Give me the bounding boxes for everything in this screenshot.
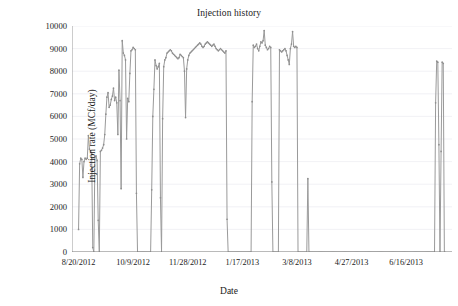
data-point-marker: [287, 59, 289, 61]
data-point-marker: [288, 64, 290, 66]
data-point-marker: [156, 68, 158, 70]
data-point-marker: [183, 57, 185, 59]
data-point-marker: [120, 188, 122, 190]
data-point-marker: [115, 96, 117, 98]
data-point-marker: [255, 45, 257, 47]
data-point-marker: [259, 45, 261, 47]
data-point-marker: [187, 59, 189, 61]
data-point-marker: [157, 66, 159, 68]
y-tick-label: 0: [23, 248, 72, 257]
data-point-marker: [264, 44, 266, 46]
data-point-marker: [155, 65, 157, 67]
data-point-marker: [291, 43, 293, 45]
data-point-marker: [159, 62, 161, 64]
data-point-marker: [164, 59, 166, 61]
data-line: [79, 31, 446, 252]
data-point-marker: [117, 134, 119, 136]
data-point-marker: [261, 42, 263, 44]
data-point-marker: [81, 158, 83, 160]
data-point-marker: [185, 117, 187, 119]
data-point-marker: [153, 88, 155, 90]
data-point-marker: [82, 177, 84, 179]
y-tick-label: 4000: [23, 157, 72, 166]
y-tick-label: 8000: [23, 67, 72, 76]
x-tick-label: 8/20/2012: [62, 259, 96, 267]
data-point-marker: [134, 49, 136, 51]
data-point-marker: [124, 55, 126, 57]
chart-title: Injection history: [0, 8, 458, 18]
data-point-marker: [107, 92, 109, 94]
data-point-marker: [127, 97, 129, 99]
x-tick-label: 3/8/2013: [282, 259, 312, 267]
data-point-marker: [258, 50, 260, 52]
data-point-marker: [184, 70, 186, 72]
data-point-marker: [154, 59, 156, 61]
data-series-group: [79, 31, 446, 252]
y-axis-title: Injection rate (MCf/day): [87, 36, 97, 236]
data-point-marker: [284, 48, 286, 50]
gridlines-group: [72, 26, 452, 229]
data-point-marker: [165, 57, 167, 59]
data-point-marker: [83, 161, 85, 163]
data-point-marker: [292, 31, 294, 33]
data-point-marker: [119, 100, 121, 102]
data-point-marker: [266, 47, 268, 49]
data-point-marker: [113, 87, 115, 89]
data-point-marker: [151, 189, 153, 191]
data-point-marker: [307, 178, 309, 180]
x-axis-title: Date: [0, 286, 458, 296]
data-point-marker: [131, 49, 133, 51]
data-point-marker: [263, 30, 265, 32]
data-point-marker: [286, 55, 288, 57]
data-point-marker: [162, 118, 164, 120]
data-point-marker: [224, 52, 226, 54]
plot-area: 0100020003000400050006000700080009000100…: [72, 26, 452, 252]
data-point-marker: [252, 44, 254, 46]
data-point-marker: [251, 101, 253, 103]
data-point-marker: [128, 101, 130, 103]
data-point-marker: [104, 134, 106, 136]
data-point-marker: [163, 66, 165, 68]
data-point-marker: [285, 50, 287, 52]
data-point-marker: [225, 50, 227, 52]
data-point-marker: [256, 43, 258, 45]
data-point-marker: [112, 95, 114, 97]
data-point-marker: [108, 107, 110, 109]
data-point-marker: [101, 149, 103, 151]
data-point-marker: [268, 48, 270, 50]
data-point-marker: [440, 151, 442, 153]
data-point-marker: [226, 218, 228, 220]
chart-figure: Injection history 0100020003000400050006…: [0, 0, 458, 306]
data-point-marker: [121, 40, 123, 42]
data-point-marker: [213, 43, 215, 45]
data-point-marker: [78, 229, 80, 231]
data-point-marker: [114, 100, 116, 102]
data-point-marker: [171, 50, 173, 52]
data-point-marker: [97, 220, 99, 222]
data-point-marker: [257, 48, 259, 50]
y-tick-label: 2000: [23, 203, 72, 212]
x-tick-label: 4/27/2013: [335, 259, 369, 267]
data-point-marker: [106, 96, 108, 98]
data-point-marker: [178, 57, 180, 59]
data-point-marker: [92, 247, 94, 249]
data-point-marker: [296, 47, 298, 49]
data-point-marker: [110, 99, 112, 101]
data-point-marker: [160, 197, 162, 199]
y-tick-label: 9000: [23, 44, 72, 53]
data-point-marker: [105, 113, 107, 115]
data-point-marker: [442, 62, 444, 64]
data-point-marker: [125, 59, 127, 61]
data-point-marker: [214, 45, 216, 47]
data-point-marker: [262, 40, 264, 42]
data-point-marker: [290, 48, 292, 50]
data-point-marker: [103, 144, 105, 146]
y-tick-label: 3000: [23, 180, 72, 189]
data-point-marker: [437, 61, 439, 63]
data-point-marker: [129, 73, 131, 75]
y-tick-label: 6000: [23, 112, 72, 121]
y-tick-label: 1000: [23, 225, 72, 234]
x-tick-label: 11/28/2012: [169, 259, 207, 267]
y-tick-label: 10000: [23, 22, 72, 31]
x-tick-label: 10/9/2012: [116, 259, 150, 267]
